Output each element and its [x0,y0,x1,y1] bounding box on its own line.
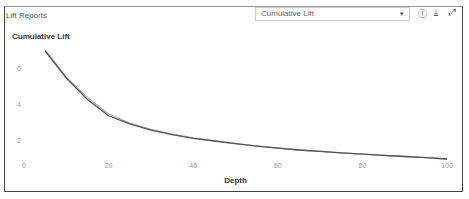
y-tick-label: 4 [17,101,21,108]
line-series-2 [45,50,447,159]
x-tick-label: 60 [274,162,282,169]
lift-chart: 246020406080100Depth [0,0,469,199]
x-axis-label: Depth [224,176,247,185]
x-tick-label: 80 [359,162,367,169]
y-tick-label: 6 [17,65,21,72]
y-tick-label: 2 [17,137,21,144]
line-series-1 [45,51,447,159]
x-tick-label: 20 [105,162,113,169]
x-tick-label: 40 [189,162,197,169]
x-tick-label: 0 [22,162,26,169]
x-tick-label: 100 [441,162,453,169]
